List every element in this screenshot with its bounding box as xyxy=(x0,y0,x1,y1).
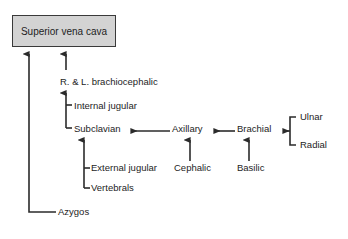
node-label-azygos: Azygos xyxy=(58,206,89,217)
node-superior-vena-cava: Superior vena cava xyxy=(12,15,116,47)
node-label-brachiocephalic: R. & L. brachiocephalic xyxy=(60,76,158,87)
node-label-radial: Radial xyxy=(300,139,327,150)
node-label-superior-vena-cava: Superior vena cava xyxy=(21,26,107,37)
node-label-basilic: Basilic xyxy=(237,162,264,173)
node-label-brachial: Brachial xyxy=(237,123,271,134)
node-label-ulnar: Ulnar xyxy=(300,111,323,122)
node-label-vertebrals: Vertebrals xyxy=(91,182,134,193)
node-label-subclavian: Subclavian xyxy=(74,123,120,134)
node-label-axillary: Axillary xyxy=(172,123,203,134)
node-label-internal-jugular: Internal jugular xyxy=(74,100,137,111)
edge-azygos-to-svc xyxy=(29,54,56,212)
node-label-cephalic: Cephalic xyxy=(174,162,211,173)
venous-drainage-diagram: Superior vena cava R. & L. brachiocephal… xyxy=(0,0,348,239)
bracket-ulnar-radial xyxy=(290,117,296,145)
node-label-external-jugular: External jugular xyxy=(91,162,157,173)
